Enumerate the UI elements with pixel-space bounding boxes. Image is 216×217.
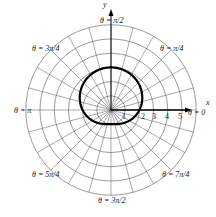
r-tick-3: 3	[152, 112, 156, 121]
polar-grid	[0, 0, 216, 217]
y-axis-label: y	[103, 0, 107, 9]
r-tick-1: 1	[122, 112, 126, 121]
angle-label-0: θ = 0	[188, 108, 205, 117]
angle-label-3pi-4: θ = 3π/4	[32, 44, 60, 53]
x-axis-label: x	[206, 98, 210, 107]
angle-label-3pi-2: θ = 3π/2	[98, 196, 126, 205]
r-tick-4: 4	[165, 112, 169, 121]
angle-label-5pi-4: θ = 5π/4	[32, 170, 60, 179]
angle-label-7pi-4: θ = 7π/4	[162, 170, 190, 179]
angle-label-pi-4: θ = π/4	[160, 44, 184, 53]
r-tick-2: 2	[141, 112, 145, 121]
angle-label-pi: θ = π	[14, 106, 31, 115]
r-tick-5: 5	[178, 112, 182, 121]
angle-label-pi-2: θ = π/2	[100, 16, 124, 25]
polar-chart: y x θ = π/2 θ = π/4 θ = 3π/4 θ = π θ = 0…	[0, 0, 216, 217]
